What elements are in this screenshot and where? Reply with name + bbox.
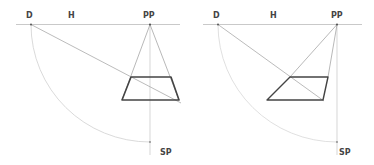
perspective-square — [122, 77, 179, 100]
measuring-arc — [218, 25, 337, 143]
perspective-diagrams: D H PP SP D H PP SP — [0, 0, 374, 165]
label-sp: SP — [160, 148, 172, 157]
label-d: D — [26, 11, 33, 20]
sp-point — [336, 141, 338, 143]
orthogonal-right — [328, 25, 337, 78]
diagonal-line — [31, 25, 181, 104]
d-point — [30, 24, 32, 26]
pp-point — [336, 23, 338, 25]
diagonal-line — [218, 25, 324, 102]
diagram-left: D H PP SP — [16, 11, 181, 157]
label-h: H — [68, 11, 75, 20]
sp-point — [149, 141, 151, 143]
label-pp: PP — [331, 11, 343, 20]
orthogonal-left — [290, 25, 337, 78]
label-pp: PP — [143, 11, 155, 20]
measuring-arc — [31, 25, 150, 143]
label-h: H — [270, 11, 277, 20]
label-d: D — [213, 11, 220, 20]
d-point — [217, 24, 219, 26]
label-sp: SP — [339, 148, 351, 157]
pp-point — [149, 23, 151, 25]
perspective-square — [267, 77, 328, 100]
diagram-right: D H PP SP — [203, 11, 362, 157]
